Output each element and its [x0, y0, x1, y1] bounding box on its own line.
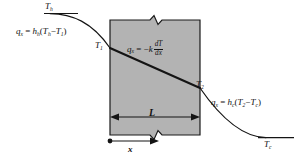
hot-eq-equals: = [25, 26, 30, 36]
hot-fluid-temperature-label: Th [45, 2, 53, 12]
x-axis-label: x [128, 145, 133, 154]
hot-eq-flux-subscript: x [21, 31, 23, 37]
hot-eq-close-paren: ) [64, 26, 67, 36]
conduction-equation: qx = −kdTdx [127, 41, 163, 57]
cond-eq-equals: = [136, 44, 141, 54]
cold-fluid-temperature-label: Tc [264, 140, 272, 150]
thickness-symbol: L [149, 107, 155, 118]
cond-eq-derivative-fraction: dTdx [154, 41, 164, 57]
x-axis-symbol: x [128, 144, 133, 154]
cold-fluid-temperature-curve [200, 88, 266, 138]
cond-eq-conductivity: k [149, 44, 153, 54]
cold-temp-subscript: c [269, 144, 271, 150]
hot-temp-subscript: h [50, 6, 53, 12]
wall-surface-temperature-2-label: T2 [196, 80, 204, 90]
cold-eq-close-paren: ) [258, 97, 261, 107]
cold-eq-flux-subscript: x [216, 102, 218, 108]
cond-eq-flux-subscript: x [132, 48, 134, 54]
surface-2-subscript: 2 [201, 84, 204, 90]
hot-side-convection-equation: qx = hh(Th−T1) [16, 27, 67, 37]
wall-slab [110, 16, 200, 140]
wall-thickness-label: L [149, 108, 155, 118]
cond-eq-denominator: dx [154, 50, 164, 58]
heat-transfer-wall-diagram [0, 0, 300, 161]
cold-eq-equals: = [220, 97, 225, 107]
surface-1-subscript: 1 [100, 45, 103, 51]
cold-side-convection-equation: qx = hc(T2−Tc) [211, 98, 261, 108]
wall-surface-temperature-1-label: T1 [95, 41, 103, 51]
